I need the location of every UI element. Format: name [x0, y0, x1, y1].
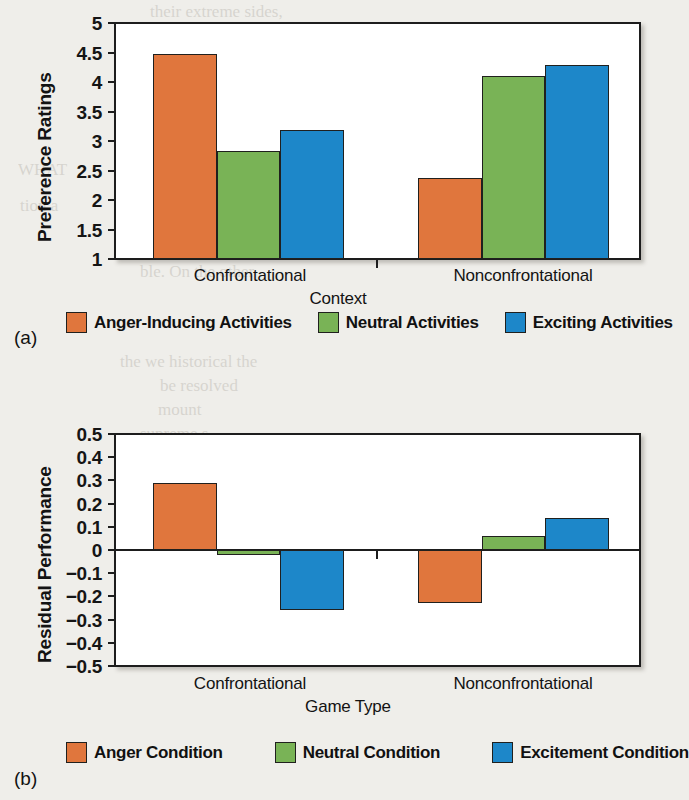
panel-b-legend-label-2: Excitement Condition — [520, 743, 689, 763]
panel-b-legend-swatch-1 — [275, 742, 296, 763]
y-axis-tick — [108, 642, 115, 644]
panel-b-legend-swatch-0 — [66, 742, 87, 763]
y-axis-tick-label: 0.5 — [32, 425, 102, 444]
panel-b-category-label-0: Confrontational — [150, 674, 350, 694]
y-axis-tick-label: 0.4 — [32, 448, 102, 467]
panel-b-legend-label-0: Anger Condition — [94, 743, 223, 763]
panel-b-y-axis-title: Residual Performance — [34, 466, 56, 663]
bar-b-0-0 — [153, 483, 217, 550]
bar-b-0-2 — [280, 550, 344, 610]
y-axis-tick — [108, 479, 115, 481]
y-axis-tick — [108, 456, 115, 458]
y-axis-tick — [108, 572, 115, 574]
panel-b-category-label-1: Nonconfrontational — [413, 674, 633, 694]
y-axis-tick — [108, 595, 115, 597]
panel-b-legend-item-2: Excitement Condition — [492, 742, 689, 763]
panel-b-legend-label-1: Neutral Condition — [303, 743, 441, 763]
bar-b-1-2 — [545, 518, 609, 550]
panel-b-legend: Anger Condition Neutral Condition Excite… — [66, 742, 646, 763]
panel-b-legend-item-0: Anger Condition — [66, 742, 223, 763]
y-axis-tick — [108, 526, 115, 528]
panel-b-x-tick-mid — [376, 551, 378, 559]
y-axis-tick — [108, 503, 115, 505]
bar-b-1-1 — [482, 536, 546, 550]
panel-b-x-axis-title: Game Type — [278, 697, 418, 717]
y-axis-tick — [108, 433, 115, 435]
panel-b-legend-swatch-2 — [492, 742, 513, 763]
panel-b-legend-item-1: Neutral Condition — [275, 742, 441, 763]
panel-b-tag: (b) — [14, 768, 37, 790]
y-axis-tick — [108, 619, 115, 621]
y-axis-tick — [108, 665, 115, 667]
bar-b-1-0 — [418, 550, 482, 603]
bar-b-0-1 — [217, 550, 281, 555]
